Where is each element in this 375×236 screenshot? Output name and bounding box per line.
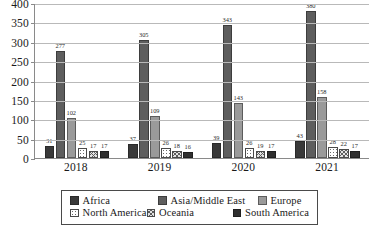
y-tick-label: 400 <box>11 0 29 10</box>
legend-item[interactable]: Africa <box>70 195 158 207</box>
bar[interactable]: 26 <box>245 148 255 158</box>
y-axis-tick <box>31 140 35 141</box>
legend-label: Africa <box>83 195 110 207</box>
gridline <box>35 4 369 5</box>
bar[interactable]: 22 <box>339 149 349 158</box>
bar[interactable]: 277 <box>56 51 66 158</box>
x-tick-label: 2018 <box>34 161 118 173</box>
legend-swatch-icon <box>258 196 267 205</box>
bar[interactable]: 18 <box>172 151 182 158</box>
legend-label: Oceania <box>159 207 194 219</box>
bar[interactable]: 16 <box>183 152 193 158</box>
bar-value-label: 17 <box>268 142 274 149</box>
legend-item[interactable]: Oceania <box>147 207 233 219</box>
y-axis-tick <box>31 4 35 5</box>
x-tick-label: 2020 <box>202 161 286 173</box>
bar-value-label: 102 <box>66 109 76 116</box>
y-axis-tick <box>31 43 35 44</box>
x-axis: 2018201920202021 <box>34 161 369 173</box>
y-tick-label: 250 <box>11 56 29 68</box>
bar-value-label: 19 <box>257 142 263 149</box>
bar[interactable]: 39 <box>212 143 222 158</box>
plot-wrapper: 400350300250200150100500 312771022517173… <box>0 4 375 182</box>
bar-value-label: 17 <box>101 142 107 149</box>
gridline <box>35 62 369 63</box>
bar[interactable]: 31 <box>45 146 55 158</box>
y-tick-label: 200 <box>11 76 29 88</box>
legend-label: North America <box>83 207 147 219</box>
y-axis-tick <box>31 82 35 83</box>
y-tick-label: 50 <box>17 134 29 146</box>
legend-swatch-icon <box>70 196 79 205</box>
gridline <box>35 120 369 121</box>
legend-swatch-icon <box>233 209 242 218</box>
legend-item[interactable]: Asia/Middle East <box>158 195 258 207</box>
bar-value-label: 305 <box>139 31 149 38</box>
y-axis-tick <box>31 101 35 102</box>
legend-swatch-icon <box>158 196 167 205</box>
legend-swatch-icon <box>70 209 79 218</box>
y-tick-label: 100 <box>11 114 29 126</box>
legend-row-1: AfricaAsia/Middle EastEurope <box>70 195 309 207</box>
bar[interactable]: 343 <box>223 25 233 158</box>
legend-label: Asia/Middle East <box>171 195 246 207</box>
y-axis-tick <box>31 23 35 24</box>
bar-value-label: 158 <box>317 88 327 95</box>
bar[interactable]: 143 <box>234 103 244 158</box>
bar-value-label: 17 <box>90 142 96 149</box>
chart-legend: AfricaAsia/Middle EastEurope North Ameri… <box>61 190 318 225</box>
bar[interactable]: 102 <box>67 118 77 158</box>
bar-value-label: 17 <box>352 142 358 149</box>
legend-label: Europe <box>271 195 302 207</box>
bar[interactable]: 19 <box>256 151 266 158</box>
bar[interactable]: 43 <box>295 141 305 158</box>
legend-item[interactable]: South America <box>233 207 310 219</box>
gridline <box>35 140 369 141</box>
y-axis: 400350300250200150100500 <box>0 4 32 159</box>
bar[interactable]: 158 <box>317 97 327 158</box>
bar[interactable]: 17 <box>267 151 277 158</box>
x-tick-label: 2021 <box>285 161 369 173</box>
bar-value-label: 380 <box>306 2 316 9</box>
bar[interactable]: 17 <box>350 151 360 158</box>
bar[interactable]: 380 <box>306 11 316 158</box>
bar-value-label: 16 <box>185 143 191 150</box>
bar[interactable]: 37 <box>128 144 138 158</box>
x-tick-label: 2019 <box>118 161 202 173</box>
bar[interactable]: 26 <box>161 148 171 158</box>
legend-label: South America <box>245 207 309 219</box>
bar-value-label: 343 <box>222 16 232 23</box>
legend-row-2: North AmericaOceaniaSouth America <box>70 207 309 219</box>
bar-value-label: 43 <box>297 132 303 139</box>
legend-swatch-icon <box>147 209 156 218</box>
y-tick-label: 0 <box>23 153 29 165</box>
bar-value-label: 18 <box>174 142 180 149</box>
gridline <box>35 82 369 83</box>
bar[interactable]: 28 <box>328 147 338 158</box>
y-axis-tick <box>31 120 35 121</box>
legend-item[interactable]: Europe <box>258 195 301 207</box>
bar-value-label: 22 <box>341 140 347 147</box>
gridline <box>35 23 369 24</box>
plot-area: 3127710225171737305109261816393431432619… <box>34 4 369 159</box>
bar[interactable]: 17 <box>100 151 110 158</box>
bar-value-label: 143 <box>233 94 243 101</box>
y-tick-label: 300 <box>11 37 29 49</box>
y-tick-label: 150 <box>11 95 29 107</box>
y-tick-label: 350 <box>11 17 29 29</box>
legend-item[interactable]: North America <box>70 207 147 219</box>
y-axis-tick <box>31 159 35 160</box>
bar[interactable]: 109 <box>150 116 160 158</box>
bar-chart: 400350300250200150100500 312771022517173… <box>0 0 375 236</box>
bar[interactable]: 25 <box>78 148 88 158</box>
bar[interactable]: 17 <box>89 151 99 158</box>
gridline <box>35 101 369 102</box>
y-axis-tick <box>31 62 35 63</box>
gridline <box>35 43 369 44</box>
bar-value-label: 109 <box>150 107 160 114</box>
